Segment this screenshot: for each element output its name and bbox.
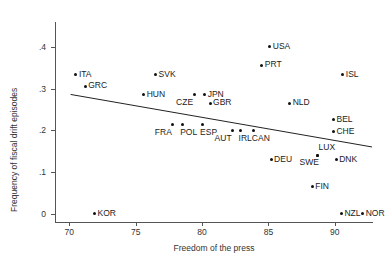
data-point-label: DEU bbox=[274, 155, 292, 164]
y-axis-tick-label: 0 bbox=[18, 210, 46, 219]
x-axis-title: Freedom of the press bbox=[56, 243, 372, 253]
data-point-label: POL bbox=[180, 128, 197, 137]
data-point-label: DNK bbox=[339, 155, 357, 164]
data-point-label: CAN bbox=[252, 134, 270, 143]
data-point-label: PRT bbox=[265, 60, 282, 69]
y-axis-tick bbox=[51, 130, 55, 131]
data-point-label: AUT bbox=[215, 134, 232, 143]
x-axis-line bbox=[55, 222, 373, 223]
data-point-label: ITA bbox=[79, 70, 92, 79]
y-axis-title-wrap: Frequency of fiscal drift episodes bbox=[0, 0, 12, 240]
data-point-label: SVK bbox=[159, 70, 176, 79]
data-point bbox=[316, 154, 319, 157]
data-point-label: LUX bbox=[319, 143, 336, 152]
x-axis-tick-label: 90 bbox=[320, 228, 350, 237]
data-point bbox=[311, 185, 314, 188]
data-point-label: HUN bbox=[147, 90, 165, 99]
y-axis-tick-label: .3 bbox=[18, 85, 46, 94]
y-axis-tick bbox=[51, 214, 55, 215]
scatter-chart-figure: Frequency of fiscal drift episodes 0.1.2… bbox=[0, 0, 386, 267]
y-axis-title: Frequency of fiscal drift episodes bbox=[9, 88, 19, 212]
data-point-label: IRL bbox=[239, 134, 252, 143]
data-point-label: ISL bbox=[346, 70, 359, 79]
data-point-label: KOR bbox=[98, 209, 116, 218]
data-point-label: NLD bbox=[293, 98, 310, 107]
y-axis-tick bbox=[51, 172, 55, 173]
data-point-label: USA bbox=[273, 42, 290, 51]
x-axis-tick bbox=[136, 222, 137, 226]
x-axis-tick-label: 80 bbox=[187, 228, 217, 237]
y-axis-tick bbox=[51, 47, 55, 48]
data-point-label: CHE bbox=[336, 127, 354, 136]
data-point-label: SWE bbox=[300, 158, 319, 167]
data-point-label: NOR bbox=[366, 209, 385, 218]
data-point-label: FRA bbox=[155, 128, 172, 137]
x-axis-tick bbox=[335, 222, 336, 226]
data-point bbox=[84, 85, 87, 88]
data-point-label: NZL bbox=[344, 209, 360, 218]
data-point-label: BEL bbox=[336, 115, 352, 124]
x-axis-tick bbox=[69, 222, 70, 226]
x-axis-tick bbox=[268, 222, 269, 226]
x-axis-tick-label: 75 bbox=[121, 228, 151, 237]
y-axis-tick-label: .2 bbox=[18, 126, 46, 135]
plot-area bbox=[56, 24, 372, 222]
y-axis-tick bbox=[51, 89, 55, 90]
y-axis-tick-label: .4 bbox=[18, 43, 46, 52]
y-axis-tick-label: .1 bbox=[18, 168, 46, 177]
data-point-label: GRC bbox=[88, 81, 107, 90]
data-point bbox=[288, 102, 291, 105]
x-axis-tick-label: 85 bbox=[253, 228, 283, 237]
x-axis-tick-label: 70 bbox=[54, 228, 84, 237]
data-point-label: GBR bbox=[213, 98, 231, 107]
data-point-label: FIN bbox=[315, 182, 329, 191]
x-axis-tick bbox=[202, 222, 203, 226]
data-point-label: CZE bbox=[176, 98, 193, 107]
data-point bbox=[209, 102, 212, 105]
